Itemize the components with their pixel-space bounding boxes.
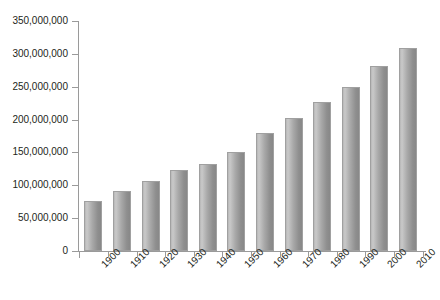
x-axis-tick-label: 2000 — [385, 262, 393, 270]
bar — [199, 164, 217, 251]
x-axis-tick-label: 1910 — [128, 262, 136, 270]
y-axis-tick-label: 300,000,000 — [0, 49, 68, 59]
y-axis-tick-label: 200,000,000 — [0, 115, 68, 125]
y-axis-tick-label-text: 300,000,000 — [0, 49, 68, 59]
bar — [170, 170, 188, 251]
y-axis-tick-label: 350,000,000 — [0, 16, 68, 26]
bar — [84, 201, 102, 251]
x-axis-tick — [137, 252, 138, 258]
y-axis-tick — [72, 21, 79, 22]
bar — [113, 191, 131, 251]
y-axis-tick — [72, 87, 79, 88]
x-axis-tick-label: 1960 — [271, 262, 279, 270]
y-axis-tick-label-text: 150,000,000 — [0, 147, 68, 157]
x-axis-tick-label: 1980 — [328, 262, 336, 270]
y-axis-tick-label: 150,000,000 — [0, 147, 68, 157]
y-axis-tick-label-text: 350,000,000 — [0, 16, 68, 26]
x-axis-tick-label: 2010 — [414, 262, 422, 270]
x-axis-tick-label: 1990 — [357, 262, 365, 270]
y-axis-tick-label-text: 250,000,000 — [0, 82, 68, 92]
x-axis-tick — [280, 252, 281, 258]
bar — [370, 66, 388, 251]
x-axis-tick — [79, 252, 80, 258]
y-axis-tick-label-text: 0 — [0, 246, 68, 256]
x-axis-tick-label: 1900 — [99, 262, 107, 270]
y-axis-tick — [72, 218, 79, 219]
y-axis-tick — [72, 185, 79, 186]
bar — [256, 133, 274, 251]
y-axis-tick-label: 0 — [0, 246, 68, 256]
y-axis-tick-label-text: 200,000,000 — [0, 115, 68, 125]
y-axis-tick-label: 50,000,000 — [0, 213, 68, 223]
x-axis-tick-label: 1930 — [185, 262, 193, 270]
x-axis-tick-label: 1950 — [242, 262, 250, 270]
bar — [227, 152, 245, 251]
y-axis-tick — [72, 120, 79, 121]
x-axis-tick-label: 1920 — [157, 262, 165, 270]
bar-chart: 050,000,000100,000,000150,000,000200,000… — [0, 0, 440, 300]
y-axis-tick-label-text: 50,000,000 — [0, 213, 68, 223]
x-axis-tick — [194, 252, 195, 258]
x-axis-tick — [251, 252, 252, 258]
x-axis-tick — [394, 252, 395, 258]
x-axis-tick-label: 1940 — [214, 262, 222, 270]
bar — [342, 87, 360, 251]
y-axis-tick-label-text: 100,000,000 — [0, 180, 68, 190]
x-axis-tick — [337, 252, 338, 258]
x-axis-tick — [165, 252, 166, 258]
y-axis-tick — [72, 152, 79, 153]
y-axis-tick — [72, 54, 79, 55]
x-axis-tick — [108, 252, 109, 258]
bar — [399, 48, 417, 251]
x-axis-tick — [222, 252, 223, 258]
y-axis-tick — [72, 251, 79, 252]
x-axis-tick — [365, 252, 366, 258]
x-axis-tick — [308, 252, 309, 258]
bar — [142, 181, 160, 251]
y-axis-tick-label: 250,000,000 — [0, 82, 68, 92]
x-axis-tick-label: 1970 — [300, 262, 308, 270]
bar — [285, 118, 303, 251]
bar — [313, 102, 331, 251]
x-axis-tick — [423, 252, 424, 258]
y-axis-tick-label: 100,000,000 — [0, 180, 68, 190]
